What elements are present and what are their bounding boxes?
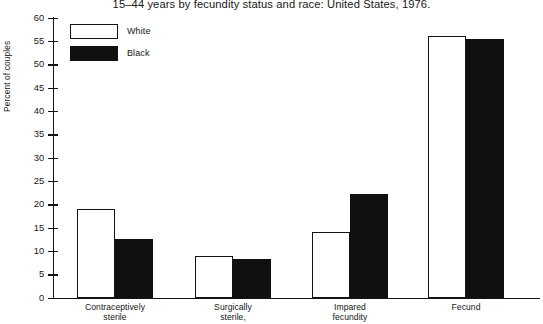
category-label-2: Imparedfecundity <box>290 302 410 322</box>
bar-black-0 <box>115 239 153 297</box>
bar-black-3 <box>466 39 504 298</box>
category-label-0: Contraceptivelysterile <box>55 302 175 322</box>
tick-label: 55 <box>22 36 44 45</box>
tick-mark <box>48 158 58 159</box>
tick-label: 25 <box>22 176 44 185</box>
category-label-1: Surgicallysterile, <box>173 302 293 322</box>
bar-white-1 <box>195 256 233 298</box>
category-label-line: sterile, <box>173 312 293 322</box>
tick-label: 50 <box>22 59 44 68</box>
tick-label: 45 <box>22 83 44 92</box>
tick-mark <box>48 274 58 275</box>
figure-root: 15–44 years by fecundity status and race… <box>0 0 543 324</box>
tick-mark <box>48 298 58 299</box>
category-label-3: Fecund <box>406 302 526 312</box>
tick-mark <box>48 88 58 89</box>
tick-mark <box>48 111 58 112</box>
legend-item-white: White <box>70 20 151 42</box>
category-label-line: Fecund <box>406 302 526 312</box>
tick-label: 20 <box>22 199 44 208</box>
category-label-line: fecundity <box>290 312 410 322</box>
bar-white-2 <box>312 232 350 297</box>
legend-item-black: Black <box>70 42 151 64</box>
tick-label: 60 <box>22 13 44 22</box>
tick-mark <box>48 134 58 135</box>
tick-label: 10 <box>22 246 44 255</box>
legend: WhiteBlack <box>70 20 151 64</box>
tick-mark <box>48 204 58 205</box>
bar-black-1 <box>233 259 271 298</box>
tick-label: 35 <box>22 129 44 138</box>
tick-mark <box>48 18 58 19</box>
legend-swatch-white <box>70 24 118 39</box>
legend-label: White <box>127 26 151 36</box>
tick-mark <box>48 181 58 182</box>
category-label-line: Surgically <box>173 302 293 312</box>
tick-label: 0 <box>22 293 44 302</box>
legend-label: Black <box>127 48 150 58</box>
bar-black-2 <box>350 194 388 298</box>
tick-mark <box>48 64 58 65</box>
x-axis-line <box>53 298 540 299</box>
category-label-line: Impared <box>290 302 410 312</box>
category-label-line: sterile <box>55 312 175 322</box>
legend-swatch-black <box>70 46 118 61</box>
tick-label: 40 <box>22 106 44 115</box>
tick-mark <box>48 41 58 42</box>
bar-white-0 <box>77 209 115 298</box>
tick-label: 15 <box>22 223 44 232</box>
tick-label: 30 <box>22 153 44 162</box>
tick-mark <box>48 228 58 229</box>
tick-label: 5 <box>22 269 44 278</box>
category-label-line: Contraceptively <box>55 302 175 312</box>
bar-white-3 <box>428 36 466 297</box>
tick-mark <box>48 251 58 252</box>
